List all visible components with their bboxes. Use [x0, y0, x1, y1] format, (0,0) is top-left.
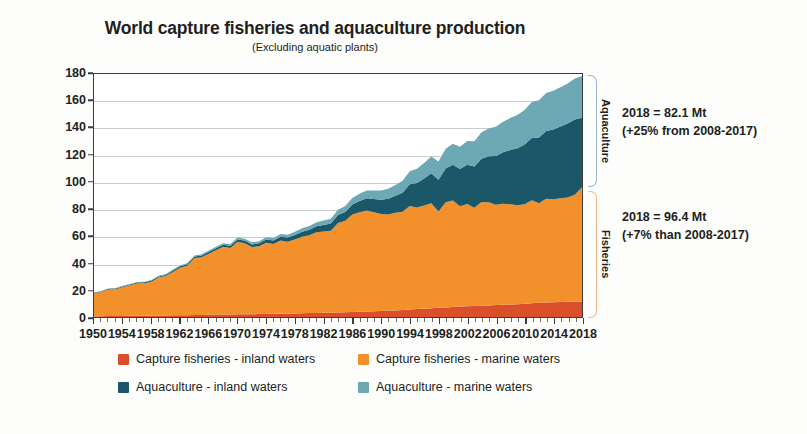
x-axis-tick — [338, 318, 339, 322]
legend-row-2: Aquaculture - inland waters Aquaculture … — [93, 380, 593, 408]
x-axis-ticks — [93, 318, 583, 324]
x-axis-tick — [540, 318, 541, 322]
x-axis-tick — [288, 318, 289, 322]
x-axis-labels: 1950195419581962196619701974197819821986… — [93, 327, 583, 345]
x-axis-tick — [165, 318, 166, 322]
x-axis-tick — [280, 318, 281, 322]
x-axis-tick — [345, 318, 346, 322]
x-axis-tick — [143, 318, 144, 322]
area-series-capture-fisheries-marine-waters — [94, 187, 582, 316]
x-axis-tick — [302, 318, 303, 322]
x-axis-tick — [100, 318, 101, 322]
x-axis-tick — [115, 318, 116, 322]
x-axis-tick — [475, 318, 476, 322]
x-axis-tick — [533, 318, 534, 322]
x-axis-tick-label: 1986 — [339, 327, 367, 341]
x-axis-tick — [396, 318, 397, 322]
x-axis-tick-label: 1974 — [252, 327, 280, 341]
x-axis-tick — [237, 318, 238, 324]
x-axis-tick-label: 1990 — [367, 327, 395, 341]
legend-item-capture-marine: Capture fisheries - marine waters — [358, 352, 560, 366]
x-axis-tick — [201, 318, 202, 322]
x-axis-tick — [504, 318, 505, 322]
legend-row-1: Capture fisheries - inland waters Captur… — [93, 352, 593, 380]
bracket-aquaculture — [588, 75, 597, 187]
bracket-label-fisheries: Fisheries — [600, 191, 612, 318]
x-axis-tick-label: 2002 — [454, 327, 482, 341]
legend-item-aquaculture-marine: Aquaculture - marine waters — [358, 380, 532, 394]
x-axis-tick — [525, 318, 526, 324]
stacked-area-series — [94, 74, 582, 318]
y-axis-tick-label: 0 — [79, 311, 86, 325]
x-axis-tick — [172, 318, 173, 322]
x-axis-tick — [583, 318, 584, 324]
x-axis-tick — [432, 318, 433, 322]
x-axis-tick — [424, 318, 425, 322]
y-axis-tick-label: 40 — [72, 257, 86, 271]
chart-title: World capture fisheries and aquaculture … — [0, 18, 630, 39]
x-axis-tick-label: 1954 — [108, 327, 136, 341]
x-axis-tick — [511, 318, 512, 322]
x-axis-tick — [561, 318, 562, 322]
annotation-total: 2018 = 82.1 Mt — [622, 104, 757, 122]
x-axis-tick-label: 2010 — [511, 327, 539, 341]
x-axis-tick-label: 1970 — [223, 327, 251, 341]
x-axis-tick — [461, 318, 462, 322]
x-axis-tick — [107, 318, 108, 322]
legend-label-aquaculture-inland: Aquaculture - inland waters — [136, 380, 287, 394]
legend-label-capture-inland: Capture fisheries - inland waters — [136, 352, 315, 366]
x-axis-tick-label: 1966 — [194, 327, 222, 341]
x-axis-tick — [367, 318, 368, 322]
x-axis-tick — [518, 318, 519, 322]
x-axis-tick — [223, 318, 224, 322]
x-axis-tick — [244, 318, 245, 322]
x-axis-tick — [554, 318, 555, 324]
x-axis-tick — [316, 318, 317, 322]
y-axis-tick-label: 20 — [72, 284, 86, 298]
bracket-label-aquaculture: Aquaculture — [600, 75, 612, 187]
x-axis-tick — [388, 318, 389, 322]
y-axis-tick-label: 100 — [65, 175, 86, 189]
x-axis-tick-label: 1994 — [396, 327, 424, 341]
x-axis-tick — [129, 318, 130, 322]
chart-subtitle: (Excluding aquatic plants) — [0, 41, 630, 53]
y-axis-tick-label: 160 — [65, 93, 86, 107]
y-axis-tick-label: 140 — [65, 120, 86, 134]
x-axis-tick — [179, 318, 180, 324]
legend-item-aquaculture-inland: Aquaculture - inland waters — [118, 380, 287, 394]
y-axis-tick-label: 60 — [72, 229, 86, 243]
x-axis-tick — [136, 318, 137, 322]
annotation-change: (+25% from 2008-2017) — [622, 122, 757, 140]
x-axis-tick — [216, 318, 217, 322]
y-axis-tick-label: 80 — [72, 202, 86, 216]
legend-label-aquaculture-marine: Aquaculture - marine waters — [376, 380, 532, 394]
legend-swatch-capture-inland — [118, 354, 129, 365]
x-axis-tick — [453, 318, 454, 322]
x-axis-tick-label: 1978 — [281, 327, 309, 341]
x-axis-tick — [403, 318, 404, 322]
x-axis-tick — [309, 318, 310, 322]
x-axis-tick-label: 1950 — [79, 327, 107, 341]
x-axis-tick — [331, 318, 332, 322]
plot-area: Million tonnes 020406080100120140160180 … — [93, 73, 583, 318]
x-axis-tick — [93, 318, 94, 324]
chart-legend: Capture fisheries - inland waters Captur… — [93, 352, 593, 408]
x-axis-tick — [482, 318, 483, 322]
x-axis-tick — [259, 318, 260, 322]
legend-swatch-capture-marine — [358, 354, 369, 365]
x-axis-tick-label: 2014 — [540, 327, 568, 341]
y-axis-tick-label: 180 — [65, 66, 86, 80]
y-axis-tick-label: 120 — [65, 148, 86, 162]
legend-label-capture-marine: Capture fisheries - marine waters — [376, 352, 560, 366]
annotation-change: (+7% than 2008-2017) — [622, 226, 749, 244]
x-axis-tick — [569, 318, 570, 322]
legend-item-capture-inland: Capture fisheries - inland waters — [118, 352, 315, 366]
x-axis-tick — [360, 318, 361, 322]
annotation-aquaculture: 2018 = 82.1 Mt(+25% from 2008-2017) — [622, 104, 757, 140]
x-axis-tick — [273, 318, 274, 322]
x-axis-tick — [208, 318, 209, 324]
x-axis-tick-label: 1962 — [166, 327, 194, 341]
x-axis-tick — [194, 318, 195, 322]
x-axis-tick — [381, 318, 382, 324]
x-axis-tick — [295, 318, 296, 324]
